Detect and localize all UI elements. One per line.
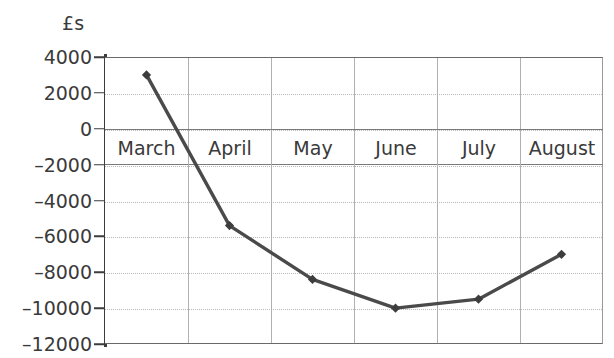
- x-axis-category-label: May: [271, 130, 354, 166]
- x-axis-category-label: June: [354, 130, 437, 166]
- y-tick-label: –2000: [34, 154, 92, 176]
- y-tick-label: –12000: [22, 333, 92, 355]
- y-tick-label: –8000: [34, 261, 92, 283]
- y-tick-mark: [94, 200, 105, 202]
- y-tick-mark: [94, 307, 105, 309]
- y-axis-tick-labels: 400020000–2000–4000–6000–8000–10000–1200…: [0, 0, 100, 358]
- line-chart: £s 400020000–2000–4000–6000–8000–10000–1…: [0, 0, 614, 358]
- y-tick-mark: [94, 128, 105, 130]
- gridline-vertical: [437, 58, 438, 343]
- x-axis-category-label: March: [105, 130, 188, 166]
- y-tick-mark: [94, 92, 105, 94]
- x-axis-category-label: July: [437, 130, 520, 166]
- y-tick-mark: [94, 343, 105, 345]
- y-tick-mark: [94, 236, 105, 238]
- y-tick-label: 4000: [44, 46, 92, 68]
- x-axis-category-label: August: [520, 130, 603, 166]
- gridline-vertical: [520, 58, 521, 343]
- plot-area: [105, 57, 603, 344]
- y-tick-label: –4000: [34, 190, 92, 212]
- y-tick-label: 0: [80, 118, 92, 140]
- x-axis-category-label: April: [188, 130, 271, 166]
- y-tick-label: –10000: [22, 297, 92, 319]
- y-tick-label: –6000: [34, 225, 92, 247]
- gridline-vertical: [271, 58, 272, 343]
- y-tick-label: 2000: [44, 82, 92, 104]
- y-tick-mark: [94, 164, 105, 166]
- gridline-vertical: [354, 58, 355, 343]
- y-tick-mark: [94, 56, 105, 58]
- x-axis-category-band: MarchAprilMayJuneJulyAugust: [105, 129, 603, 165]
- gridline-vertical: [188, 58, 189, 343]
- y-tick-mark: [94, 272, 105, 274]
